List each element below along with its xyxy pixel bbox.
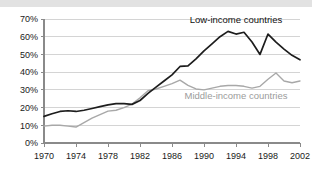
- x-tick-label: 1990: [194, 151, 214, 161]
- x-tick-label: 1998: [258, 151, 278, 161]
- line-chart-svg: 0%10%20%30%40%50%60%70% 1970197419781982…: [0, 7, 312, 179]
- chart-figure: 0%10%20%30%40%50%60%70% 1970197419781982…: [0, 0, 312, 179]
- top-band: [0, 0, 312, 7]
- y-tick-label: 20%: [20, 103, 38, 113]
- y-tick-label: 40%: [20, 67, 38, 77]
- x-tick-label: 1970: [34, 151, 54, 161]
- y-tick-label: 30%: [20, 85, 38, 95]
- y-tick-label: 60%: [20, 32, 38, 42]
- series-label-low-income: Low-income countries: [190, 14, 283, 25]
- series-label-middle-income: Middle-income countries: [185, 90, 288, 101]
- x-tick-label: 1978: [98, 151, 118, 161]
- x-tick-label: 1982: [130, 151, 150, 161]
- x-tick-label: 1974: [66, 151, 86, 161]
- x-tick-label: 1986: [162, 151, 182, 161]
- series-line-low-income: [44, 31, 300, 116]
- y-tick-label: 10%: [20, 121, 38, 131]
- y-tick-label: 70%: [20, 14, 38, 24]
- y-tick-label: 0%: [25, 138, 38, 148]
- x-axis-tick-labels: 197019741978198219861990199419982002: [34, 151, 310, 161]
- x-tick-label: 1994: [226, 151, 246, 161]
- gridlines-group: [44, 19, 300, 125]
- y-axis-tick-labels: 0%10%20%30%40%50%60%70%: [20, 14, 38, 148]
- y-tick-label: 50%: [20, 50, 38, 60]
- chart-plot-area: 0%10%20%30%40%50%60%70% 1970197419781982…: [0, 7, 312, 179]
- x-tick-label: 2002: [290, 151, 310, 161]
